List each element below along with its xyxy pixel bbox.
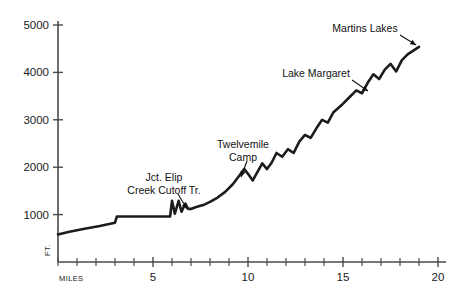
annotation-label: Martins Lakes <box>332 22 397 34</box>
annotation-label: Lake Margaret <box>282 67 350 79</box>
annotation-arrowhead <box>241 171 246 177</box>
annotation-lake-margaret: Lake Margaret <box>282 67 368 91</box>
chart-canvas: 100020003000400050005101520FT.MILESJct. … <box>0 0 468 299</box>
annotation-martins-lakes: Martins Lakes <box>332 22 416 45</box>
annotation-jct-elip-creek-cutoff: Jct. ElipCreek Cutoff Tr. <box>127 171 200 209</box>
x-tick-label: 5 <box>150 271 156 283</box>
y-tick-label: 5000 <box>23 19 49 31</box>
y-tick-label: 3000 <box>23 114 49 126</box>
y-axis-unit-label: FT. <box>43 244 52 256</box>
annotation-label: Jct. ElipCreek Cutoff Tr. <box>127 171 200 196</box>
annotation-twelvemile-camp: TwelvemileCamp <box>217 138 269 177</box>
x-tick-label: 15 <box>337 271 350 283</box>
x-axis-unit-label: MILES <box>59 274 84 283</box>
annotation-label: TwelvemileCamp <box>217 138 269 163</box>
annotation-arrowhead <box>410 40 416 45</box>
x-tick-label: 20 <box>432 271 445 283</box>
y-tick-label: 2000 <box>23 161 49 173</box>
y-tick-label: 1000 <box>23 209 49 221</box>
y-tick-label: 4000 <box>23 66 49 78</box>
x-tick-label: 10 <box>242 271 255 283</box>
elevation-profile-chart: 100020003000400050005101520FT.MILESJct. … <box>0 0 468 299</box>
